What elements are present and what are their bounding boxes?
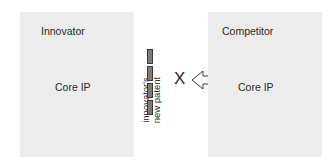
competitor-title: Competitor bbox=[222, 25, 332, 37]
patent-bar bbox=[147, 100, 153, 115]
patent-barrier-label: innovator's new patent bbox=[140, 67, 168, 133]
patent-bar bbox=[147, 83, 153, 98]
innovator-title: Innovator bbox=[41, 25, 155, 37]
competitor-box: Competitor Core IP bbox=[208, 12, 322, 157]
blocked-x-mark: X bbox=[174, 70, 185, 88]
patent-bar bbox=[147, 66, 153, 81]
patent-bar bbox=[147, 49, 153, 64]
competitor-core-ip-label: Core IP bbox=[238, 81, 274, 93]
innovator-box: Innovator Core IP bbox=[20, 12, 134, 157]
innovator-core-ip-label: Core IP bbox=[55, 81, 91, 93]
patent-barrier-bars bbox=[147, 49, 153, 116]
